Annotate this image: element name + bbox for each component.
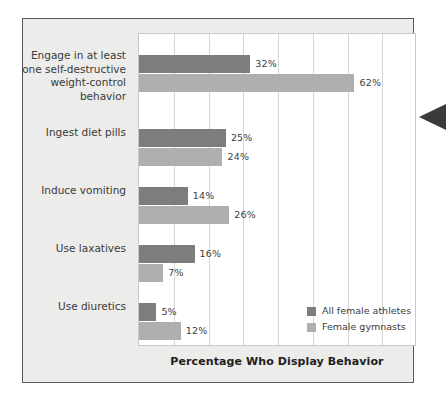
chart-legend: All female athletesFemale gymnasts [307, 305, 411, 337]
legend-item: All female athletes [307, 305, 411, 317]
category-label: Induce vomiting [0, 184, 126, 198]
bar [139, 129, 226, 147]
bar-value-label: 25% [231, 129, 253, 147]
bar [139, 322, 181, 340]
bar-value-label: 26% [234, 206, 256, 224]
bar-value-label: 24% [227, 148, 249, 166]
category-label: Ingest diet pills [0, 126, 126, 140]
bar-group: 16%7% [139, 245, 415, 282]
legend-swatch-icon [307, 307, 316, 316]
chart-panel: 32%62%25%24%14%26%16%7%5%12% All female … [22, 18, 414, 383]
bar-value-label: 12% [186, 322, 208, 340]
bar-value-label: 7% [168, 264, 183, 282]
x-axis-title: Percentage Who Display Behavior [138, 355, 416, 368]
category-label: Engage in at least one self-destructive … [0, 49, 126, 103]
bar-value-label: 32% [255, 55, 277, 73]
legend-swatch-icon [307, 323, 316, 332]
bar-value-label: 5% [161, 303, 176, 321]
legend-item: Female gymnasts [307, 321, 411, 333]
bar-value-label: 14% [193, 187, 215, 205]
bar-group: 25%24% [139, 129, 415, 166]
bar [139, 245, 195, 263]
category-label: Use laxatives [0, 242, 126, 256]
legend-label: All female athletes [322, 305, 411, 317]
bar [139, 148, 222, 166]
category-label: Use diuretics [0, 300, 126, 314]
plot-area: 32%62%25%24%14%26%16%7%5%12% All female … [138, 33, 416, 346]
bar [139, 264, 163, 282]
legend-label: Female gymnasts [322, 321, 406, 333]
bar [139, 74, 354, 92]
bar-value-label: 62% [359, 74, 381, 92]
bar [139, 206, 229, 224]
left-pointing-triangle-icon [419, 104, 446, 130]
bar-value-label: 16% [200, 245, 222, 263]
bar [139, 303, 156, 321]
bar-group: 32%62% [139, 55, 415, 92]
bar [139, 55, 250, 73]
bar-group: 14%26% [139, 187, 415, 224]
bar [139, 187, 188, 205]
